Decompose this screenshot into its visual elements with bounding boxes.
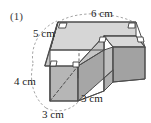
right-angle-mark-top-right-icon xyxy=(128,23,135,28)
dimension-label-side-depth: 3 cm xyxy=(81,92,103,104)
dimension-label-top-width: 6 cm xyxy=(91,7,113,19)
figure-number-label: (1) xyxy=(10,10,23,23)
solid-body xyxy=(45,22,145,101)
dimension-label-front-height: 4 cm xyxy=(14,75,36,87)
dimension-label-top-depth: 5 cm xyxy=(33,27,55,39)
solid-figure-drawing: (1) 5 cm 6 cm 4 cm 3 cm 3 cm xyxy=(0,0,151,123)
face-right-side xyxy=(113,47,145,82)
right-angle-mark-step-icon xyxy=(99,37,106,42)
dimension-label-front-width: 3 cm xyxy=(42,108,64,120)
right-angle-mark-top-left-icon xyxy=(59,23,68,28)
right-angle-mark-front-left-icon xyxy=(50,61,57,66)
right-angle-mark-raised-icon xyxy=(137,37,144,42)
right-angle-mark-front-right-icon xyxy=(73,62,79,67)
geometry-figure: (1) 5 cm 6 cm 4 cm 3 cm 3 cm xyxy=(0,0,151,123)
